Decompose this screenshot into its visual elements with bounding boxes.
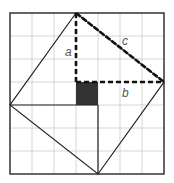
label-c: c <box>122 34 128 48</box>
label-b: b <box>122 86 129 100</box>
pythagorean-diagram: a c b <box>0 0 174 183</box>
label-a: a <box>65 45 72 59</box>
inner-square <box>76 82 98 105</box>
